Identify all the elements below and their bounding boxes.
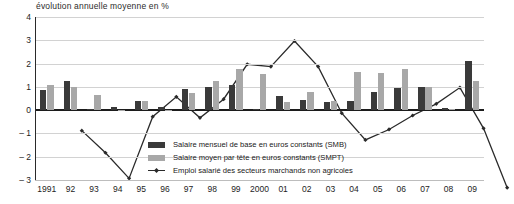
x-axis-tick: 98 xyxy=(208,184,217,194)
y-axis-tick-labels: 43210– 1– 2– 3 xyxy=(0,17,31,180)
legend-label-smb: Salaire mensuel de base en euros constan… xyxy=(173,140,346,149)
legend-swatch-smpt-icon xyxy=(148,155,165,161)
bar-smb xyxy=(205,87,211,110)
bar-smb xyxy=(158,107,164,110)
bar-smpt xyxy=(402,69,408,110)
legend-label-emploi: Emploi salarié des secteurs marchands no… xyxy=(173,166,353,175)
x-axis-tick: 05 xyxy=(373,184,382,194)
bar-smpt xyxy=(473,81,479,110)
y-axis-tick: 4 xyxy=(5,12,31,22)
bar-smpt xyxy=(71,87,77,110)
bar-smb xyxy=(442,108,448,110)
bar-smpt xyxy=(260,74,266,110)
bar-smpt xyxy=(378,73,384,110)
bar-smb xyxy=(465,61,471,110)
bar-smb xyxy=(64,81,70,110)
bar-smpt xyxy=(94,95,100,110)
bar-smpt xyxy=(142,101,148,110)
bar-smb xyxy=(40,90,46,110)
bar-smb xyxy=(371,92,377,111)
chart-subtitle: évolution annuelle moyenne en % xyxy=(36,1,169,11)
x-axis-tick: 02 xyxy=(302,184,311,194)
gridline xyxy=(35,17,484,18)
x-axis-tick: 04 xyxy=(349,184,358,194)
bar-smpt xyxy=(331,101,337,110)
bar-smb xyxy=(182,89,188,110)
bar-smb xyxy=(300,100,306,110)
bar-smb xyxy=(135,101,141,110)
y-axis-tick: 3 xyxy=(5,35,31,45)
y-axis-tick: 1 xyxy=(5,82,31,92)
legend-item-smb: Salaire mensuel de base en euros constan… xyxy=(148,138,353,151)
x-axis-tick: 95 xyxy=(137,184,146,194)
bar-smpt xyxy=(307,92,313,111)
y-axis-line xyxy=(35,17,36,180)
legend-swatch-smb-icon xyxy=(148,142,165,148)
x-axis-tick: 06 xyxy=(397,184,406,194)
bar-smpt xyxy=(165,110,171,111)
x-axis-tick: 99 xyxy=(231,184,240,194)
x-axis-tick: 92 xyxy=(66,184,75,194)
x-axis-tick: 97 xyxy=(184,184,193,194)
y-axis-tick: 2 xyxy=(5,59,31,69)
chart-legend: Salaire mensuel de base en euros constan… xyxy=(148,138,353,177)
bar-smpt xyxy=(236,69,242,110)
y-axis-tick: 0 xyxy=(5,105,31,115)
gridline xyxy=(35,40,484,41)
x-axis-tick: 1991 xyxy=(37,184,56,194)
bar-smpt xyxy=(47,85,53,111)
x-axis-tick: 03 xyxy=(326,184,335,194)
x-axis-tick: 94 xyxy=(113,184,122,194)
gridline xyxy=(35,64,484,65)
bar-smpt xyxy=(425,87,431,110)
bar-smb xyxy=(418,87,424,110)
x-axis-tick: 07 xyxy=(420,184,429,194)
bar-smb xyxy=(394,88,400,110)
bar-smb xyxy=(111,107,117,110)
x-axis-tick: 2000 xyxy=(250,184,269,194)
x-axis-tick: 01 xyxy=(278,184,287,194)
bar-smpt xyxy=(284,102,290,110)
y-axis-tick: – 2 xyxy=(5,152,31,162)
line-marker xyxy=(505,186,509,190)
y-axis-tick: – 3 xyxy=(5,175,31,185)
bar-smb xyxy=(87,109,93,110)
bar-smb xyxy=(324,102,330,110)
x-axis-tick: 09 xyxy=(467,184,476,194)
legend-item-smpt: Salaire moyen par tête en euros constant… xyxy=(148,151,353,164)
legend-item-emploi: Emploi salarié des secteurs marchands no… xyxy=(148,164,353,177)
bar-smpt xyxy=(213,81,219,110)
bar-smb xyxy=(347,101,353,110)
bar-smpt xyxy=(118,110,124,111)
bar-smpt xyxy=(354,72,360,110)
bar-smb xyxy=(253,109,259,110)
legend-label-smpt: Salaire moyen par tête en euros constant… xyxy=(173,153,344,162)
y-axis-tick: – 1 xyxy=(5,128,31,138)
bar-smpt xyxy=(449,109,455,110)
bar-smb xyxy=(229,85,235,111)
gridline xyxy=(35,133,484,134)
x-axis-baseline xyxy=(35,180,484,181)
bar-smb xyxy=(276,96,282,110)
x-axis-tick: 93 xyxy=(89,184,98,194)
bar-smpt xyxy=(189,93,195,110)
legend-swatch-line-icon xyxy=(148,168,165,174)
x-axis-tick: 08 xyxy=(444,184,453,194)
x-axis-tick: 96 xyxy=(160,184,169,194)
